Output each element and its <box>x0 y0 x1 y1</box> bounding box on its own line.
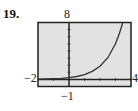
ymax-label: 8 <box>64 8 70 20</box>
plot-frame <box>38 23 131 87</box>
ymin-label: −1 <box>61 90 74 102</box>
xmin-label: −2 <box>24 72 37 84</box>
xmax-label: 4 <box>132 72 138 84</box>
